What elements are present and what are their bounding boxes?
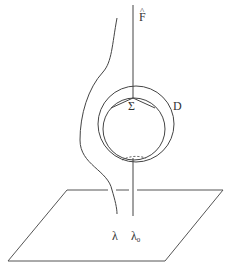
sigma-text: Σ (128, 99, 135, 113)
plane (8, 190, 223, 261)
outer-circle-d (98, 86, 174, 162)
disk-text: D (173, 99, 182, 113)
lambda0-subscript: 0 (137, 236, 141, 244)
dashed-arc (122, 156, 146, 160)
hat-accent: ^ (140, 7, 144, 16)
lambda-label: λ (112, 230, 118, 242)
lambda-text: λ (112, 229, 118, 243)
f-hat-label: ^ F (139, 11, 146, 23)
disk-label: D (173, 100, 182, 112)
sigma-label: Σ (128, 100, 135, 112)
lambda0-label: λ0 (131, 230, 140, 244)
